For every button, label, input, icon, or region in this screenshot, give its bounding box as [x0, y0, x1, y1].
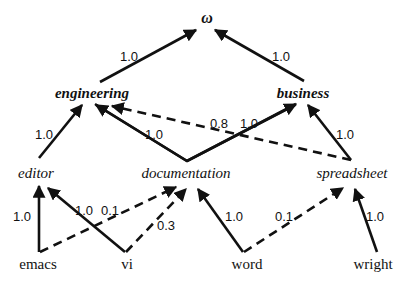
edge-engineering-to-root: [100, 30, 196, 82]
weight-vi-documentation: 0.3: [157, 218, 175, 233]
weight-engineering-root: 1.0: [120, 49, 138, 64]
weight-business-root: 1.0: [272, 49, 290, 64]
node-emacs: emacs: [19, 256, 57, 272]
node-engineering: engineering: [55, 85, 130, 101]
weight-documentation-engineering: 1.0: [145, 127, 163, 142]
weight-documentation-business: 1.0: [240, 116, 258, 131]
weight-spreadsheet-engineering: 0.8: [210, 116, 228, 131]
weight-word-documentation: 1.0: [225, 209, 243, 224]
edge-vi-to-documentation: [126, 189, 186, 252]
weight-word-spreadsheet: 0.1: [275, 209, 293, 224]
node-documentation: documentation: [141, 165, 230, 181]
node-business: business: [277, 85, 330, 101]
weight-emacs-editor: 1.0: [13, 209, 31, 224]
node-wright: wright: [353, 256, 393, 272]
edge-documentation-to-business: [187, 104, 296, 161]
weight-wright-spreadsheet: 1.0: [366, 209, 384, 224]
weight-spreadsheet-business: 1.0: [336, 127, 354, 142]
node-root: ω: [201, 9, 213, 26]
weight-editor-engineering: 1.0: [35, 127, 53, 142]
node-spreadsheet: spreadsheet: [316, 165, 388, 181]
edge-business-to-root: [215, 30, 304, 81]
node-vi: vi: [121, 256, 133, 272]
node-word: word: [232, 256, 263, 272]
hierarchy-diagram: ω engineering business editor documentat…: [0, 0, 408, 286]
edge-word-to-spreadsheet: [244, 188, 343, 252]
weight-emacs-documentation: 0.1: [101, 203, 119, 218]
weight-vi-editor: 1.0: [75, 203, 93, 218]
edge-documentation-to-engineering-and-business: [95, 104, 295, 161]
node-editor: editor: [18, 165, 54, 181]
